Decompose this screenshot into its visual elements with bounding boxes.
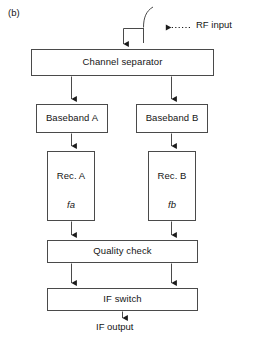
antenna-curve [144,7,154,28]
block-if-switch[interactable]: IF switch [47,288,198,311]
antenna-to-separator-connector [124,29,144,45]
block-rec-a-label: Rec. A [57,171,86,182]
block-baseband-a[interactable]: Baseband A [36,104,108,133]
block-if-switch-label: IF switch [103,294,141,305]
block-channel-separator[interactable]: Channel separator [31,49,214,76]
block-baseband-b-label: Baseband B [146,113,199,124]
block-rec-a-frequency: fa [67,200,75,211]
block-rec-b-label: Rec. B [157,171,186,182]
block-rec-b-frequency: fb [168,200,176,211]
block-quality-check-label: Quality check [93,246,151,257]
block-channel-separator-label: Channel separator [83,57,163,68]
if-output-label: IF output [96,322,134,332]
panel-label: (b) [8,8,20,18]
block-rec-b[interactable]: Rec. B fb [148,151,196,221]
block-quality-check[interactable]: Quality check [47,240,198,263]
figure-panel-b: (b) RF input Channel separator Baseband … [0,0,265,338]
rf-input-label: RF input [196,20,232,30]
block-baseband-a-label: Baseband A [46,113,98,124]
block-rec-a[interactable]: Rec. A fa [47,151,95,221]
block-baseband-b[interactable]: Baseband B [136,104,208,133]
